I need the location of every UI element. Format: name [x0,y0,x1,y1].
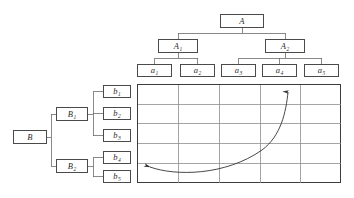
node-b-root[interactable]: B [13,130,47,144]
cross-tab-grid[interactable] [138,85,341,183]
node-a2[interactable]: A2 [265,39,305,53]
node-b-leaf-4[interactable]: b4 [103,151,131,164]
node-b-leaf-3[interactable]: b3 [103,129,131,142]
node-label: b5 [113,172,120,181]
node-label: a5 [318,66,325,75]
node-b-leaf-1[interactable]: b1 [103,85,131,98]
node-b2[interactable]: B2 [56,159,88,173]
node-label: A2 [281,42,289,51]
grid-outer-border [138,85,341,183]
node-label: a1 [151,66,158,75]
node-label: b4 [113,153,120,162]
node-label: A [239,17,244,26]
node-label: B1 [68,110,76,119]
node-label: a2 [194,66,201,75]
node-label: a4 [276,66,283,75]
diagram-vector-layer [0,0,354,198]
node-label: B [27,133,32,142]
node-b-leaf-5[interactable]: b5 [103,170,131,183]
node-a-root[interactable]: A [220,14,264,28]
node-label: B2 [68,162,76,171]
node-a-leaf-1[interactable]: a1 [137,64,172,77]
node-b-leaf-2[interactable]: b2 [103,107,131,120]
node-a-leaf-3[interactable]: a3 [221,64,256,77]
node-a1[interactable]: A1 [158,39,198,53]
node-a-leaf-2[interactable]: a2 [180,64,215,77]
node-a-leaf-4[interactable]: a4 [262,64,297,77]
node-label: b3 [113,131,120,140]
figure-canvas: A A1 A2 a1 a2 a3 a4 a5 B B1 B2 b1 b2 b3 … [0,0,354,198]
node-a-leaf-5[interactable]: a5 [304,64,339,77]
node-label: b2 [113,109,120,118]
node-label: a3 [235,66,242,75]
node-b1[interactable]: B1 [56,107,88,121]
node-label: b1 [113,87,120,96]
node-label: A1 [174,42,182,51]
